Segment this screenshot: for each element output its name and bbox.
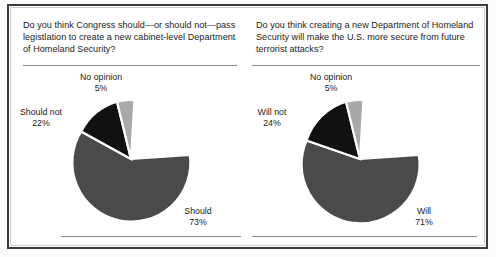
pie-label-should-not-value: 22% xyxy=(12,118,70,129)
pie-label-should-not-name: Should not xyxy=(20,107,62,117)
pie-label-will-not: Will not 24% xyxy=(249,107,295,130)
pie-label-should: Should 73% xyxy=(170,206,226,229)
panel-security-effectiveness: Do you think creating a new Department o… xyxy=(246,7,485,246)
pie-label-no-opinion-name: No opinion xyxy=(80,72,122,82)
pie-label-no-opinion-value: 5% xyxy=(64,83,138,94)
pie-svg-congress xyxy=(67,95,195,223)
pie-label-will: Will 71% xyxy=(402,206,446,229)
pie-svg-security xyxy=(296,95,424,223)
pie-label-should-not: Should not 22% xyxy=(12,107,70,130)
pie-label-will-not-value: 24% xyxy=(249,118,295,129)
pie-label-will-value: 71% xyxy=(402,217,446,228)
poll-figure: Do you think Congress should—or should n… xyxy=(0,0,496,257)
pie-label-will-name: Will xyxy=(417,206,431,216)
pie-label-will-not-name: Will not xyxy=(258,107,287,117)
pie-label-should-name: Should xyxy=(184,206,211,216)
pie-label-no-opinion-name: No opinion xyxy=(310,72,352,82)
pie-chart-security: No opinion 5% Will not 24% Will 71% xyxy=(246,7,485,246)
pie-label-no-opinion-value: 5% xyxy=(294,83,368,94)
pie-label-should-value: 73% xyxy=(170,217,226,228)
panel-congress-legislation: Do you think Congress should—or should n… xyxy=(11,7,245,246)
pie-chart-congress: No opinion 5% Should not 22% Should 73% xyxy=(11,7,245,246)
pie-label-no-opinion-left: No opinion 5% xyxy=(64,72,138,95)
pie-label-no-opinion-right: No opinion 5% xyxy=(294,72,368,95)
